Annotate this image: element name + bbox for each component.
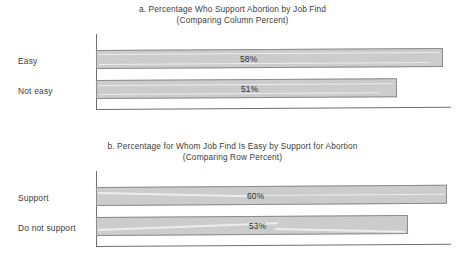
panel-a-category-label-not-easy: Not easy <box>18 86 53 96</box>
panel-b-value-support: 60% <box>247 191 264 201</box>
panel-a-value-easy: 58% <box>240 54 257 64</box>
panel-a-subtitle: (Comparing Column Percent) <box>0 15 465 26</box>
panel-a-titles: a. Percentage Who Support Abortion by Jo… <box>0 4 465 26</box>
panel-b-titles: b. Percentage for Whom Job Find Is Easy … <box>0 141 465 163</box>
panel-a-bar-easy <box>96 48 443 69</box>
panel-b-category-label-support: Support <box>18 193 49 203</box>
panel-b-plot-area: Support Do not support 60% 53% <box>0 167 465 267</box>
panel-b-value-do-not-support: 53% <box>249 221 266 231</box>
panel-a-title: a. Percentage Who Support Abortion by Jo… <box>0 4 465 15</box>
chart-panel-a: a. Percentage Who Support Abortion by Jo… <box>0 0 465 137</box>
panel-b-subtitle: (Comparing Row Percent) <box>0 152 465 163</box>
chart-panel-b: b. Percentage for Whom Job Find Is Easy … <box>0 137 465 274</box>
panel-a-value-not-easy: 51% <box>241 84 258 94</box>
panel-b-x-axis <box>96 244 451 247</box>
panel-a-category-label-easy: Easy <box>18 56 37 66</box>
panel-a-plot-area: Easy Not easy 58% 51% <box>0 30 465 130</box>
figure-container: a. Percentage Who Support Abortion by Jo… <box>0 0 465 274</box>
panel-b-bar-support <box>96 185 447 206</box>
panel-b-title: b. Percentage for Whom Job Find Is Easy … <box>0 141 465 152</box>
panel-b-category-label-do-not-support: Do not support <box>18 223 76 233</box>
panel-a-x-axis <box>96 107 451 110</box>
